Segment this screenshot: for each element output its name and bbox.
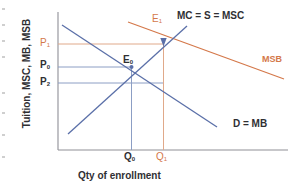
edge-artifact [2, 92, 5, 94]
curve-msb [128, 22, 284, 79]
curve-demand-mb [62, 25, 217, 127]
y-axis-title: Tuition, MSC, MB, MSB [21, 4, 32, 144]
edge-artifact [2, 156, 5, 158]
price-tick-p0: P0 [40, 60, 50, 70]
price-tick-p1: P1 [40, 38, 50, 48]
chart-canvas: Tuition, MSC, MB, MSB Qty of enrollment … [0, 0, 298, 187]
equilibrium-marker-e0 [130, 65, 134, 69]
x-axis-title: Qty of enrollment [78, 170, 161, 181]
quantity-tick-q1: Q1 [156, 152, 167, 162]
curve-supply-msc [68, 26, 187, 134]
curve-label-msb: MSB [262, 55, 282, 64]
equilibrium-label-e1: E1 [152, 14, 162, 24]
edge-artifact [2, 112, 5, 114]
edge-artifact [2, 8, 5, 10]
price-tick-p2: P2 [40, 77, 50, 87]
quantity-tick-q0: Q0 [124, 152, 135, 162]
curve-label-demand: D = MB [233, 119, 267, 129]
edge-artifact [2, 134, 5, 136]
edge-artifact [2, 24, 5, 26]
curve-label-supply: MC = S = MSC [177, 11, 244, 21]
edge-artifact [2, 56, 5, 58]
externality-diagram-svg [0, 0, 298, 187]
equilibrium-label-e0: E0 [123, 55, 133, 65]
edge-artifact [2, 40, 5, 42]
